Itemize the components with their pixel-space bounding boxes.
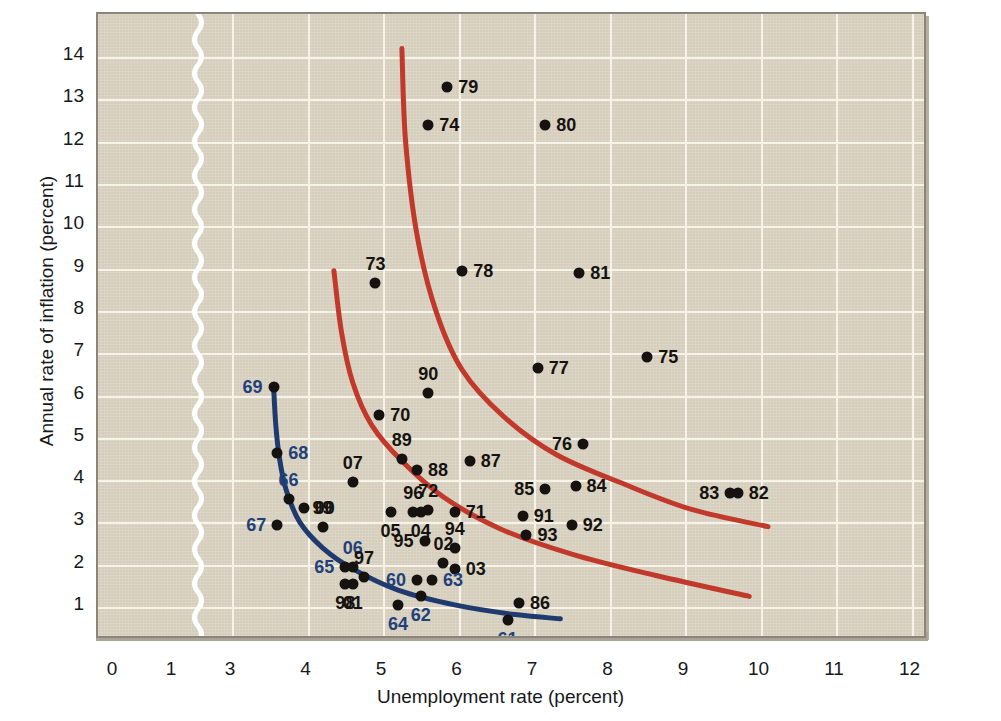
data-point-label-86: 86 <box>530 592 550 613</box>
data-point-66 <box>283 494 294 505</box>
data-point-95 <box>419 536 430 547</box>
data-point-label-91: 91 <box>534 506 554 527</box>
data-point-07 <box>347 477 358 488</box>
data-point-80 <box>540 119 551 130</box>
data-point-label-84: 84 <box>587 476 607 497</box>
x-tick-label-12: 12 <box>890 658 930 680</box>
data-point-label-83: 83 <box>699 482 719 503</box>
x-tick-label-7: 7 <box>512 658 552 680</box>
data-point-label-88: 88 <box>428 459 448 480</box>
data-point-87 <box>464 456 475 467</box>
plot-area: 7974807378817775699070688976888707668584… <box>96 12 926 638</box>
data-point-84 <box>570 481 581 492</box>
data-point-label-81: 81 <box>590 262 610 283</box>
data-point-88 <box>411 464 422 475</box>
data-point-99 <box>317 521 328 532</box>
data-point-02 <box>438 557 449 568</box>
x-tick-label-9: 9 <box>663 658 703 680</box>
data-point-label-61: 61 <box>498 628 518 638</box>
data-point-81 <box>574 267 585 278</box>
data-point-label-01: 01 <box>343 592 363 613</box>
data-point-label-77: 77 <box>549 358 569 379</box>
data-point-92 <box>566 519 577 530</box>
data-point-label-64: 64 <box>388 613 408 634</box>
data-point-label-62: 62 <box>411 605 431 626</box>
phillips-curves <box>98 14 926 638</box>
x-tick-label-5: 5 <box>361 658 401 680</box>
data-point-04 <box>415 506 426 517</box>
data-point-label-72: 72 <box>418 480 438 501</box>
x-axis-title: Unemployment rate (percent) <box>0 686 1001 708</box>
data-point-label-95: 95 <box>394 531 414 552</box>
data-point-label-75: 75 <box>658 347 678 368</box>
data-point-label-02: 02 <box>433 533 453 554</box>
data-point-label-69: 69 <box>243 377 263 398</box>
data-point-73 <box>370 278 381 289</box>
data-point-label-76: 76 <box>552 434 572 455</box>
data-point-label-89: 89 <box>392 429 412 450</box>
data-point-76 <box>578 439 589 450</box>
data-point-79 <box>442 81 453 92</box>
data-point-61 <box>502 614 513 625</box>
data-point-69 <box>268 382 279 393</box>
x-tick-label-3: 3 <box>210 658 250 680</box>
data-point-label-99: 99 <box>313 497 333 518</box>
x-tick-label-0: 0 <box>92 658 132 680</box>
data-point-63 <box>427 574 438 585</box>
data-point-label-71: 71 <box>466 501 486 522</box>
data-point-68 <box>272 447 283 458</box>
data-point-01 <box>347 578 358 589</box>
data-point-label-80: 80 <box>556 114 576 135</box>
data-point-label-66: 66 <box>279 470 299 491</box>
data-point-label-73: 73 <box>365 254 385 275</box>
data-point-label-97: 97 <box>354 548 374 569</box>
y-axis-title: Annual rate of inflation (percent) <box>36 11 58 611</box>
data-point-77 <box>532 363 543 374</box>
data-point-label-87: 87 <box>481 451 501 472</box>
x-tick-label-4: 4 <box>286 658 326 680</box>
x-tick-label-8: 8 <box>588 658 628 680</box>
data-point-label-70: 70 <box>390 404 410 425</box>
data-point-label-60: 60 <box>386 569 406 590</box>
data-point-86 <box>513 597 524 608</box>
data-point-64 <box>393 599 404 610</box>
data-point-82 <box>732 487 743 498</box>
data-point-91 <box>517 511 528 522</box>
data-point-97 <box>359 572 370 583</box>
data-point-62 <box>415 591 426 602</box>
data-point-70 <box>374 409 385 420</box>
data-point-00 <box>298 502 309 513</box>
data-point-60 <box>411 574 422 585</box>
data-point-90 <box>423 388 434 399</box>
x-tick-label-1: 1 <box>151 658 191 680</box>
data-point-label-03: 03 <box>466 558 486 579</box>
data-point-89 <box>396 453 407 464</box>
data-point-label-65: 65 <box>314 556 334 577</box>
data-point-label-67: 67 <box>246 514 266 535</box>
data-point-78 <box>457 265 468 276</box>
data-point-85 <box>540 483 551 494</box>
data-point-05 <box>385 506 396 517</box>
data-point-74 <box>423 119 434 130</box>
data-point-71 <box>449 506 460 517</box>
data-point-label-85: 85 <box>514 478 534 499</box>
data-point-label-92: 92 <box>583 514 603 535</box>
x-tick-label-10: 10 <box>739 658 779 680</box>
data-point-label-07: 07 <box>343 453 363 474</box>
data-point-67 <box>272 519 283 530</box>
data-point-label-90: 90 <box>418 364 438 385</box>
data-point-label-63: 63 <box>443 569 463 590</box>
phillips-curve-figure: 7974807378817775699070688976888707668584… <box>0 0 1001 721</box>
x-tick-label-11: 11 <box>814 658 854 680</box>
data-point-label-74: 74 <box>439 114 459 135</box>
data-point-75 <box>642 352 653 363</box>
data-point-label-68: 68 <box>288 442 308 463</box>
x-tick-label-6: 6 <box>437 658 477 680</box>
data-point-label-78: 78 <box>473 260 493 281</box>
data-point-label-82: 82 <box>749 482 769 503</box>
data-point-label-93: 93 <box>537 525 557 546</box>
data-point-label-79: 79 <box>458 76 478 97</box>
data-point-93 <box>521 530 532 541</box>
